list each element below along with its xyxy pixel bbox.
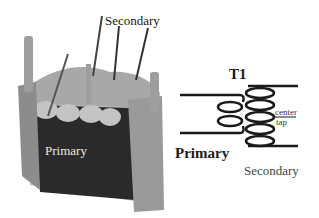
schematic-secondary-label: Secondary bbox=[244, 163, 299, 179]
photo-secondary-label: Secondary bbox=[105, 13, 160, 29]
schematic-primary-label: Primary bbox=[175, 145, 229, 162]
center-tap-label-line2: tap bbox=[276, 117, 287, 127]
photo-primary-label: Primary bbox=[45, 143, 87, 159]
schematic-designator: T1 bbox=[229, 66, 247, 83]
transformer-schematic bbox=[0, 0, 319, 218]
center-tap-label-line1: center bbox=[275, 107, 297, 117]
